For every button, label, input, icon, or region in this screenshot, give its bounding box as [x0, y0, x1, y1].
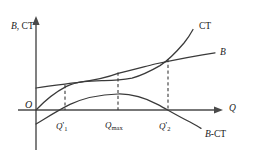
tick-q2-sub: 2	[167, 125, 170, 132]
curve-label-ct: CT	[199, 22, 211, 32]
curve-b	[36, 53, 215, 88]
y-axis	[32, 16, 39, 150]
tick-q1-sub: 1	[64, 125, 67, 132]
y-axis-label: B, CT	[11, 22, 34, 32]
y-axis-label-rest: , CT	[17, 21, 34, 31]
x-axis-label: Q	[229, 104, 236, 114]
economics-chart: B, CT Q O CT B B-CT Q'1 Qmax Q'2	[0, 0, 256, 159]
tick-label-q2: Q'2	[159, 121, 170, 132]
tick-label-qmax: Qmax	[105, 121, 123, 131]
curve-ct	[36, 30, 193, 111]
curve-label-b: B	[220, 48, 226, 58]
origin-label: O	[25, 100, 32, 110]
tick-qmax-sub: max	[112, 124, 123, 131]
x-axis	[18, 106, 223, 113]
tick-label-q1: Q'1	[56, 121, 67, 132]
curve-label-bct-rest: -CT	[211, 129, 226, 139]
curve-label-b-minus-ct: B-CT	[205, 130, 226, 140]
